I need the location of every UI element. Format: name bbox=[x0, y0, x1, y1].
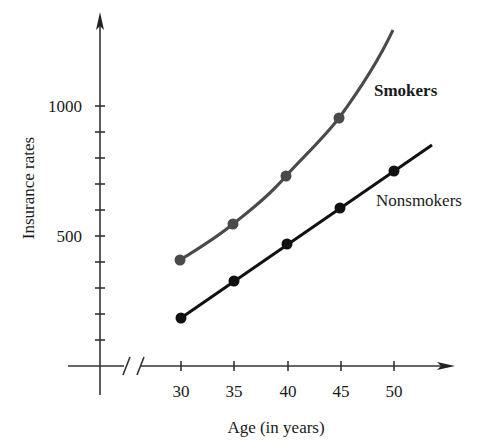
y-tick-label-1000: 1000 bbox=[48, 97, 82, 116]
y-axis: 1000 500 Insurance rates bbox=[19, 12, 105, 395]
y-axis-title: Insurance rates bbox=[19, 137, 38, 239]
x-tick-label-35: 35 bbox=[226, 382, 243, 401]
nonsmokers-point-40 bbox=[282, 239, 293, 250]
x-axis: 30 35 40 45 50 Age (in years) bbox=[68, 357, 455, 437]
nonsmokers-label: Nonsmokers bbox=[376, 191, 462, 210]
smokers-point-45 bbox=[334, 113, 345, 124]
nonsmokers-point-35 bbox=[229, 276, 240, 287]
x-tick-label-30: 30 bbox=[173, 382, 190, 401]
insurance-rates-chart: 1000 500 Insurance rates 30 35 40 45 50 … bbox=[0, 0, 485, 442]
smokers-point-40 bbox=[281, 171, 292, 182]
smokers-point-35 bbox=[228, 219, 239, 230]
x-tick-label-50: 50 bbox=[386, 382, 403, 401]
x-axis-break-icon bbox=[123, 357, 144, 375]
nonsmokers-point-50 bbox=[389, 166, 400, 177]
smokers-line bbox=[180, 30, 393, 260]
x-tick-label-45: 45 bbox=[333, 382, 350, 401]
x-tick-label-40: 40 bbox=[280, 382, 297, 401]
nonsmokers-point-45 bbox=[335, 203, 346, 214]
x-axis-title: Age (in years) bbox=[227, 418, 324, 437]
nonsmokers-point-30 bbox=[176, 313, 187, 324]
y-tick-label-500: 500 bbox=[57, 227, 83, 246]
smokers-label: Smokers bbox=[374, 81, 438, 100]
smokers-point-30 bbox=[175, 255, 186, 266]
